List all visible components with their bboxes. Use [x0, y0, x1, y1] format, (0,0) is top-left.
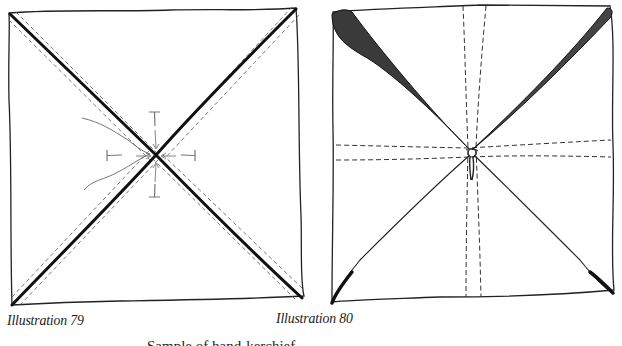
illustration-79: [0, 0, 312, 310]
caption-illustration-80: Illustration 80: [276, 310, 353, 327]
fold-bottom-right-shade: [590, 272, 613, 293]
fold-bottom-left: [332, 155, 470, 303]
bold-diagonals: [10, 9, 302, 305]
thread: [82, 118, 150, 190]
illustration-79-drawing: [0, 0, 312, 310]
fold-bottom-left-shade: [332, 272, 352, 303]
illustration-80-drawing: [320, 0, 622, 310]
shaded-fold-top-right: [472, 8, 612, 150]
caption-illustration-79: Illustration 79: [7, 312, 84, 329]
shaded-fold-top-left: [332, 10, 470, 150]
illustration-80: [320, 0, 622, 310]
cropped-subcaption: Sample of hand-kerchief ...: [147, 336, 310, 346]
